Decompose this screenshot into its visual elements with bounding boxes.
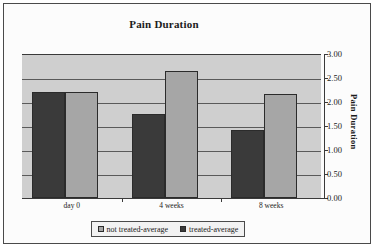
x-tick-mark bbox=[221, 198, 222, 202]
chart-legend: not treated-average treated-average bbox=[91, 221, 245, 237]
x-tick-label: 4 weeks bbox=[122, 201, 222, 210]
chart-frame: Pain Duration 3.002.502.001.501.000.500.… bbox=[3, 3, 371, 244]
x-tick-label: day 0 bbox=[22, 201, 122, 210]
bar-group bbox=[122, 54, 222, 198]
y-tick-label: 3.00 bbox=[327, 49, 342, 59]
legend-swatch-icon bbox=[98, 226, 104, 232]
y-tick-label: 2.00 bbox=[327, 97, 342, 107]
y-axis-title: Pain Duration bbox=[349, 94, 359, 150]
x-axis-line bbox=[22, 198, 325, 199]
y-tick-label: 2.50 bbox=[327, 73, 342, 83]
legend-label: treated-average bbox=[189, 225, 238, 234]
y-tick-label: 1.50 bbox=[327, 121, 342, 131]
bars-layer bbox=[22, 54, 321, 198]
bar-treated-average bbox=[231, 130, 264, 198]
bar-not-treated-average bbox=[65, 92, 98, 198]
x-tick-label: 8 weeks bbox=[221, 201, 321, 210]
legend-swatch-icon bbox=[180, 226, 186, 232]
bar-treated-average bbox=[132, 114, 165, 198]
y-tick-label: 1.00 bbox=[327, 145, 342, 155]
bar-not-treated-average bbox=[165, 71, 198, 198]
bar-group bbox=[22, 54, 122, 198]
x-tick-mark bbox=[122, 198, 123, 202]
y-tick-label: 0.50 bbox=[327, 169, 342, 179]
legend-label: not treated-average bbox=[107, 225, 169, 234]
bar-group bbox=[221, 54, 321, 198]
bar-not-treated-average bbox=[264, 94, 297, 198]
bar-treated-average bbox=[32, 92, 65, 198]
legend-item-treated-average: treated-average bbox=[180, 225, 238, 234]
chart-title: Pain Duration bbox=[4, 18, 324, 30]
y-tick-label: 0.00 bbox=[327, 193, 342, 203]
legend-item-not-treated-average: not treated-average bbox=[98, 225, 169, 234]
